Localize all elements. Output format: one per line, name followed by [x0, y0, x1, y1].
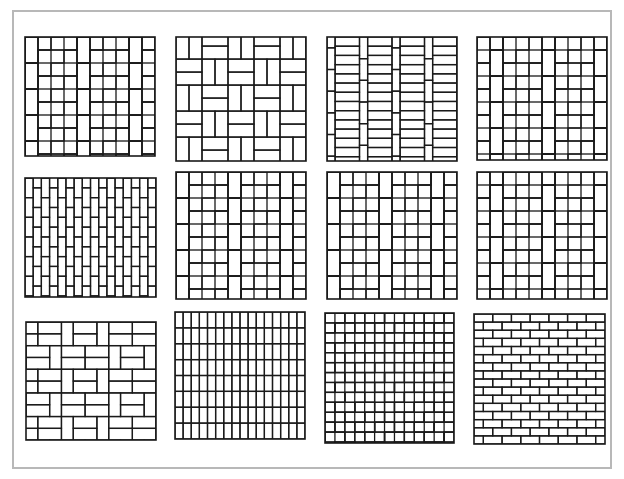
- pattern-herringbone-basket-c: [476, 171, 608, 300]
- pattern-swatch-3: [326, 36, 458, 162]
- pattern-double-basket-weave: [25, 321, 157, 441]
- pattern-swatch-1: [24, 36, 156, 157]
- pattern-vertical-running-bond: [24, 177, 157, 298]
- pattern-swatch-8: [476, 171, 608, 300]
- pattern-herringbone-basket-a: [175, 171, 307, 300]
- pattern-swatch-6: [175, 171, 307, 300]
- pattern-stack-bond-vertical: [174, 311, 306, 440]
- pattern-swatch-7: [326, 171, 458, 300]
- pattern-herringbone-45: [324, 312, 455, 444]
- pattern-running-bond-horizontal: [473, 313, 606, 445]
- pattern-basket-weave-offset: [24, 36, 156, 157]
- pattern-swatch-9: [25, 321, 157, 441]
- pattern-herringbone-basket-b: [326, 171, 458, 300]
- pattern-swatch-12: [473, 313, 606, 445]
- pattern-swatch-4: [476, 36, 608, 161]
- pattern-basket-weave-staggered: [476, 36, 608, 161]
- pattern-swatch-5: [24, 177, 157, 298]
- pattern-running-bond-with-soldier-columns: [326, 36, 458, 162]
- pattern-basket-weave-with-half-bricks: [175, 36, 307, 162]
- pattern-swatch-10: [174, 311, 306, 440]
- pattern-swatch-2: [175, 36, 307, 162]
- pattern-swatch-11: [324, 312, 455, 444]
